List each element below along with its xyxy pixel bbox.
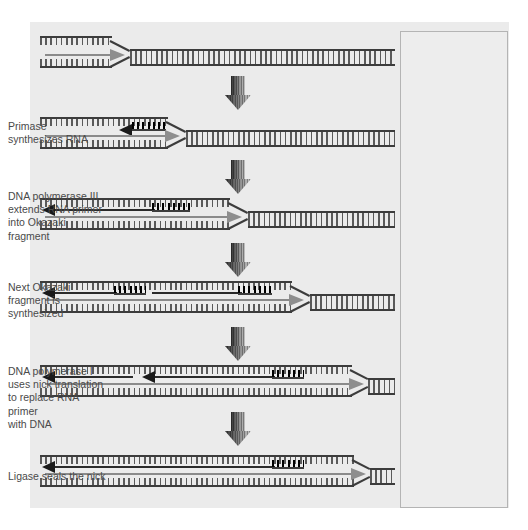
- caption-line: synthesized: [8, 307, 106, 320]
- caption-line: fragment is: [8, 294, 106, 307]
- okazaki-fragment-line: [152, 292, 242, 294]
- caption-line: Ligase seals the nick: [8, 470, 106, 483]
- caption-step2: Primasesynthesizes RNA: [8, 120, 106, 146]
- caption-line: Next Okazaki: [8, 281, 106, 294]
- transition-arrow-2: [225, 160, 251, 194]
- duplex-bottom-strand: [310, 302, 395, 311]
- duplex-bottom-strand: [370, 476, 395, 485]
- duplex-bottom-strand: [186, 138, 395, 147]
- caption-line: extends RNA primer: [8, 203, 106, 216]
- caption-step3: DNA polymerase IIIextends RNA primerinto…: [8, 190, 106, 243]
- caption-step4: Next Okazakifragment issynthesized: [8, 281, 106, 321]
- caption-step5: DNA polymerase Iuses nick translationto …: [8, 365, 106, 431]
- rna-primer: [132, 122, 166, 131]
- caption-line: DNA polymerase I: [8, 365, 106, 378]
- caption-line: uses nick translation: [8, 378, 106, 391]
- duplex-bottom-strand: [368, 386, 395, 395]
- caption-box: [400, 31, 508, 508]
- rna-primer: [238, 286, 272, 295]
- caption-line: into Okazaki fragment: [8, 216, 106, 242]
- caption-line: DNA polymerase III: [8, 190, 106, 203]
- caption-line: to replace RNA primer: [8, 391, 106, 417]
- nick-translation-arrowhead: [142, 371, 155, 383]
- transition-arrow-4: [225, 327, 251, 361]
- lagging-template-strand: [40, 455, 354, 464]
- figure-root: Primasesynthesizes RNA DNA polymerase II…: [0, 0, 528, 530]
- caption-step6: Ligase seals the nick: [8, 470, 106, 483]
- transition-arrow-5: [225, 412, 251, 446]
- caption-line: with DNA: [8, 418, 106, 431]
- ligated-lagging-strand: [55, 466, 275, 468]
- caption-line: synthesizes RNA: [8, 133, 106, 146]
- transition-arrow-3: [225, 243, 251, 277]
- caption-line: Primase: [8, 120, 106, 133]
- duplex-bottom-strand: [248, 219, 395, 228]
- transition-arrow-1: [225, 76, 251, 110]
- rna-primer: [152, 203, 190, 212]
- okazaki-fragment-line: [155, 376, 275, 378]
- rna-primer: [114, 286, 146, 295]
- rna-primer: [272, 370, 304, 379]
- rna-primer: [272, 460, 304, 469]
